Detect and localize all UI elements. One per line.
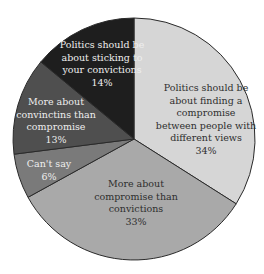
label-line: Can't say <box>24 158 74 171</box>
label-line: compromise <box>16 121 96 134</box>
label-line: Politics should be <box>56 39 148 52</box>
label-sticking-to-convictions: Politics should be about sticking to you… <box>56 39 148 89</box>
label-line: convinctins than <box>16 109 96 122</box>
label-line: convictions <box>84 203 188 216</box>
label-line: your convictions <box>56 64 148 77</box>
label-line: between people with <box>150 120 262 133</box>
label-percent: 6% <box>24 171 74 184</box>
label-line: More about <box>84 178 188 191</box>
label-line: More about <box>16 96 96 109</box>
label-compromise-between-views: Politics should be about finding a compr… <box>150 82 262 157</box>
label-cant-say: Can't say 6% <box>24 158 74 183</box>
label-line: different views <box>150 132 262 145</box>
label-percent: 13% <box>16 134 96 147</box>
label-line: compromise than <box>84 191 188 204</box>
label-percent: 33% <box>84 216 188 229</box>
label-percent: 14% <box>56 77 148 90</box>
label-more-compromise: More about compromise than convictions 3… <box>84 178 188 228</box>
label-line: Politics should be <box>150 82 262 95</box>
label-line: compromise <box>150 107 262 120</box>
label-line: about finding a <box>150 95 262 108</box>
label-percent: 34% <box>150 145 262 158</box>
label-line: about sticking to <box>56 52 148 65</box>
label-more-convictions: More about convinctins than compromise 1… <box>16 96 96 146</box>
